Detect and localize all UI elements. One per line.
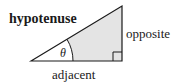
opposite-label: opposite [126,27,170,40]
hypotenuse-label: hypotenuse [9,12,77,26]
theta-angle-label: θ [60,47,66,59]
adjacent-label: adjacent [52,68,95,81]
